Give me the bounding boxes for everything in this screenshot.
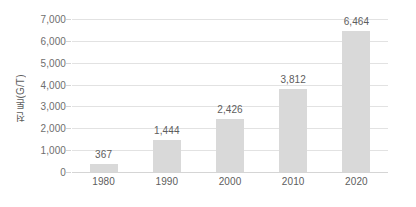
bar[interactable] [153,140,181,172]
bar-value-label: 1,444 [137,125,197,136]
bar-value-label: 367 [74,149,134,160]
y-axis-tick-label: 2,000 [40,123,66,134]
y-axis-tick-mark [66,19,71,20]
chart-screenshot: 천 톤(G/T) 01,0002,0003,0004,0005,0006,000… [0,0,416,207]
y-axis-tick-labels: 01,0002,0003,0004,0005,0006,0007,000 [24,19,66,172]
gridline [72,85,388,86]
x-axis-tick-label: 2010 [263,176,323,187]
bar-value-label: 6,464 [326,16,386,27]
y-axis-tick-label: 7,000 [40,14,66,25]
y-axis-tick-mark [66,106,71,107]
plot-area: 3671,4442,4263,8126,464 [72,19,388,172]
bar-value-label: 2,426 [200,104,260,115]
y-axis-tick-mark [66,172,71,173]
x-axis-tick-label: 2000 [200,176,260,187]
bar[interactable] [279,89,307,172]
y-axis-tick-label: 1,000 [40,145,66,156]
y-axis-tick-label: 6,000 [40,35,66,46]
bar-value-label: 3,812 [263,74,323,85]
bar[interactable] [342,31,370,172]
bar[interactable] [90,164,118,172]
x-axis-tick-label: 1990 [137,176,197,187]
gridline [72,63,388,64]
y-axis-tick-label: 4,000 [40,79,66,90]
gridline [72,41,388,42]
x-axis-tick-label: 1980 [74,176,134,187]
y-axis-tick-label: 5,000 [40,57,66,68]
y-axis-tick-mark [66,85,71,86]
y-axis-tick-mark [66,128,71,129]
y-axis-tick-mark [66,63,71,64]
y-axis-tick-label: 3,000 [40,101,66,112]
bar-chart: 천 톤(G/T) 01,0002,0003,0004,0005,0006,000… [0,0,416,207]
x-axis-line [72,172,388,173]
y-axis-tick-mark [66,150,71,151]
x-axis-tick-labels: 19801990200020102020 [72,176,388,194]
y-axis-tick-mark [66,41,71,42]
bar[interactable] [216,119,244,172]
x-axis-tick-label: 2020 [326,176,386,187]
